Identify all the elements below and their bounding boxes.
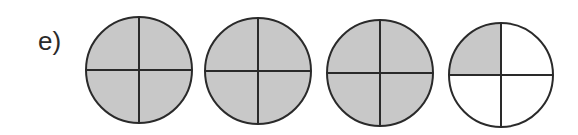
fraction-circle-3 — [327, 20, 433, 126]
fraction-circle-4 — [449, 23, 553, 127]
fraction-circles-figure — [0, 0, 578, 135]
fraction-circle-1 — [86, 17, 192, 123]
fraction-circle-2 — [205, 18, 311, 124]
